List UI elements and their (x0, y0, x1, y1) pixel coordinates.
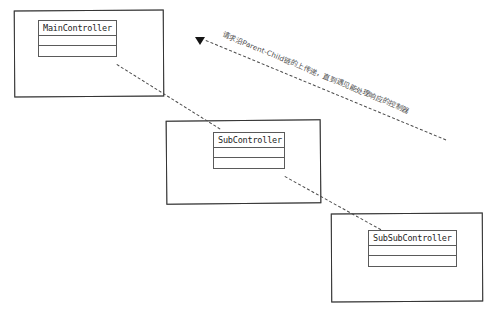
class-attributes-compartment (39, 36, 116, 46)
annotation-label: 请求沿Parent-Child链的上传递，直到遇见能处理响应的控制器 (221, 29, 411, 115)
class-attributes-compartment (214, 148, 284, 158)
class-box-sub-controller[interactable]: SubController (213, 132, 285, 169)
class-name-sub-sub-controller: SubSubController (369, 231, 456, 246)
class-attributes-compartment (369, 246, 456, 256)
class-name-main-controller: MainController (39, 21, 116, 36)
diagram-canvas: MainController SubController SubSubContr… (0, 0, 490, 312)
annotation-arrowhead-icon (195, 37, 205, 45)
class-methods-compartment (214, 158, 284, 168)
class-box-sub-sub-controller[interactable]: SubSubController (368, 230, 457, 267)
class-methods-compartment (39, 46, 116, 56)
class-box-main-controller[interactable]: MainController (38, 20, 117, 57)
class-methods-compartment (369, 256, 456, 266)
class-name-sub-controller: SubController (214, 133, 284, 148)
